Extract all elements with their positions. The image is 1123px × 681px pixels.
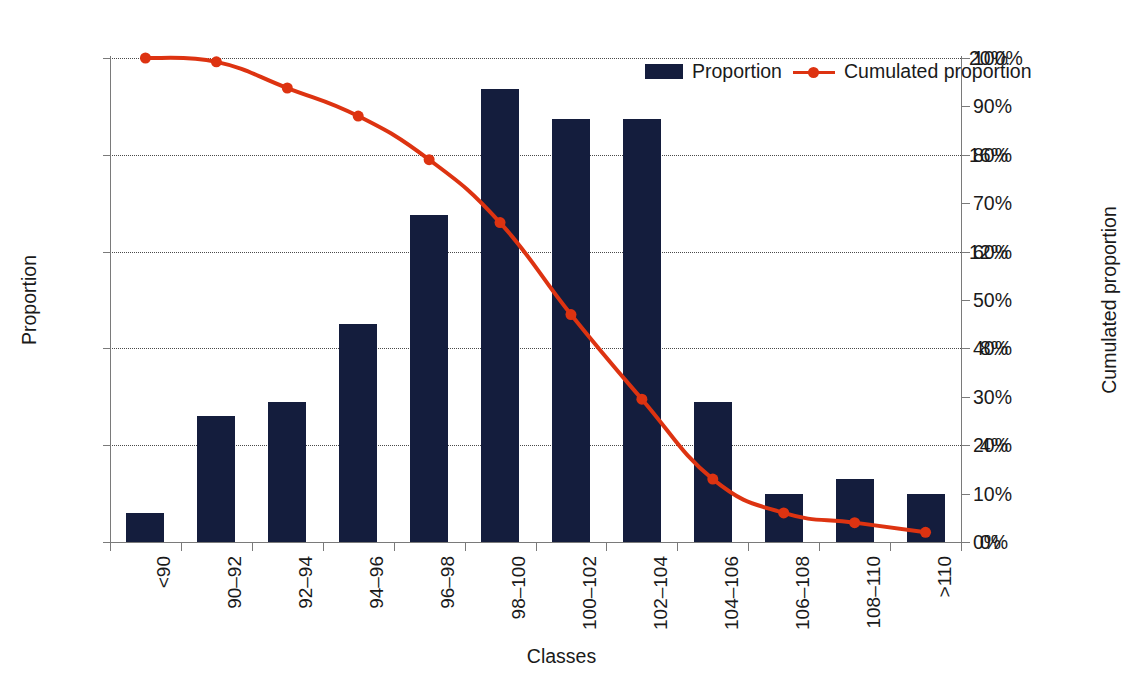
chart-figure: 0%4%8%12%16%20% 0%10%20%30%40%50%60%70%8… [0, 0, 1123, 681]
x-tick [536, 543, 537, 551]
y-tick-label-right: 30% [973, 386, 1012, 409]
x-tick-label: <90 [153, 556, 175, 588]
y-tick-right [962, 348, 970, 349]
y-tick-left [103, 348, 111, 349]
x-tick-label: 104–106 [721, 556, 743, 630]
x-tick-label: 96–98 [437, 556, 459, 609]
legend-item-proportion: Proportion [645, 60, 782, 83]
y-tick-right [962, 445, 970, 446]
legend-label-cumulated-proportion: Cumulated proportion [844, 60, 1032, 83]
line-marker [282, 83, 293, 94]
y-tick-label-right: 80% [973, 144, 1012, 167]
x-tick-label: 106–108 [792, 556, 814, 630]
y-tick-label-right: 20% [973, 434, 1012, 457]
line-marker [353, 111, 364, 122]
x-tick-label: 102–104 [650, 556, 672, 630]
cumulated-proportion-line [145, 58, 925, 533]
plot-area [110, 58, 961, 542]
x-tick [181, 543, 182, 551]
y-axis-right [961, 56, 962, 544]
line-marker [778, 507, 789, 518]
x-tick [394, 543, 395, 551]
x-tick [606, 543, 607, 551]
x-tick [677, 543, 678, 551]
x-tick-label: 92–94 [295, 556, 317, 609]
x-tick-label: 108–110 [863, 556, 885, 629]
line-marker [424, 154, 435, 165]
line-marker [849, 517, 860, 528]
y-tick-left [103, 252, 111, 253]
y-tick-label-right: 0% [973, 531, 1001, 554]
bar-swatch-icon [645, 64, 683, 79]
y-tick-right [962, 397, 970, 398]
x-axis [110, 542, 962, 543]
x-tick [323, 543, 324, 551]
y-tick-right [962, 300, 970, 301]
y-tick-label-right: 90% [973, 95, 1012, 118]
y-tick-label-right: 70% [973, 192, 1012, 215]
x-tick [819, 543, 820, 551]
y-tick-right [962, 203, 970, 204]
chart-legend: Proportion Cumulated proportion [645, 60, 1032, 83]
x-tick [748, 543, 749, 551]
y-tick-right [962, 106, 970, 107]
x-tick [465, 543, 466, 551]
line-marker [920, 527, 931, 538]
y-tick-label-right: 50% [973, 289, 1012, 312]
line-marker [140, 53, 151, 64]
x-axis-title: Classes [0, 645, 1123, 668]
x-tick [110, 543, 111, 551]
y-axis-left [110, 56, 111, 544]
y-tick-right [962, 542, 970, 543]
line-marker [211, 56, 222, 67]
y-axis-right-title: Cumulated proportion [1098, 206, 1121, 394]
x-tick [890, 543, 891, 551]
line-marker [565, 309, 576, 320]
x-tick-label: 90–92 [224, 556, 246, 609]
y-tick-left [103, 445, 111, 446]
y-tick-label-right: 10% [973, 483, 1012, 506]
line-marker [495, 217, 506, 228]
legend-label-proportion: Proportion [692, 60, 782, 83]
x-tick [252, 543, 253, 551]
y-tick-left [103, 155, 111, 156]
y-tick-label-right: 60% [973, 241, 1012, 264]
y-tick-left [103, 58, 111, 59]
legend-item-cumulated-proportion: Cumulated proportion [793, 60, 1032, 83]
y-tick-label-right: 40% [973, 337, 1012, 360]
x-tick-label: 100–102 [579, 556, 601, 630]
y-tick-right [962, 494, 970, 495]
line-series-cumulated-proportion [110, 58, 961, 542]
line-marker [636, 394, 647, 405]
x-tick-label: >110 [934, 556, 956, 597]
line-swatch-icon [793, 65, 835, 79]
y-axis-left-title: Proportion [18, 255, 41, 345]
x-tick [961, 543, 962, 551]
line-marker [707, 474, 718, 485]
x-tick-label: 98–100 [508, 556, 530, 619]
x-tick-label: 94–96 [366, 556, 388, 609]
